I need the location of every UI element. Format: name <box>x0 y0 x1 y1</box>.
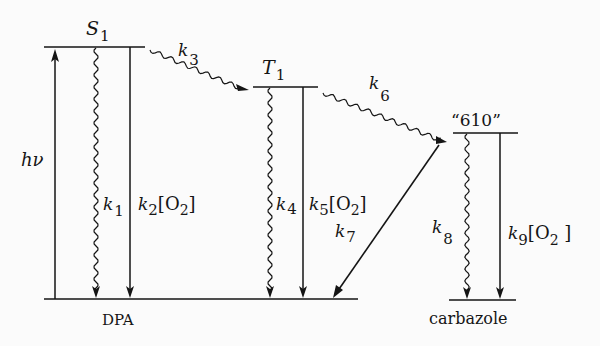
label-k9-o2: k9[O2 ] <box>508 222 571 249</box>
label-k5-o2: k5[O2] <box>309 193 367 219</box>
arrow-k1-wavy <box>92 48 100 298</box>
label-k4: k4 <box>276 194 297 218</box>
label-k3: k3 <box>178 40 199 69</box>
label-k8: k8 <box>432 217 453 248</box>
label-t1: T1 <box>262 56 285 84</box>
label-hv: hν <box>21 149 44 170</box>
arrow-k4-wavy <box>266 88 274 298</box>
label-k7: k7 <box>335 221 356 246</box>
label-k6: k6 <box>369 73 390 105</box>
arrow-k3-isc <box>150 50 249 91</box>
arrow-k2-quench <box>126 47 134 298</box>
label-k2-o2: k2[O2] <box>138 193 196 219</box>
label-610: “610” <box>451 110 501 130</box>
arrow-k7-back-transfer <box>333 145 439 298</box>
label-carbazole: carbazole <box>429 309 508 328</box>
arrow-k5-quench <box>299 87 307 298</box>
label-k1: k1 <box>103 194 124 220</box>
arrow-k8-wavy <box>463 134 471 299</box>
arrow-k9-quench <box>496 133 504 299</box>
label-dpa: DPA <box>102 311 134 329</box>
label-s1: S1 <box>86 17 110 45</box>
arrow-hv-absorption <box>51 49 59 299</box>
energy-level-diagram: S1 T1 “610” DPA carbazole hν k1 k2[O2] k… <box>0 0 600 346</box>
